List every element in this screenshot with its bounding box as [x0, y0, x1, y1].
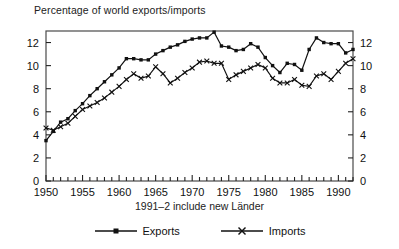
legend-item-exports: Exports [94, 225, 180, 237]
data-point-marker [161, 49, 164, 52]
data-point-marker [256, 45, 259, 48]
data-point-marker [278, 71, 281, 74]
data-point-marker [81, 102, 84, 105]
data-point-marker [212, 30, 215, 33]
data-point-marker [344, 51, 347, 54]
y-axis-label-right: 12 [360, 37, 372, 49]
data-point-marker [169, 45, 172, 48]
x-axis-label: 1985 [290, 186, 314, 198]
legend-item-imports: Imports [220, 225, 306, 237]
data-point-marker [103, 80, 106, 83]
data-point-marker [351, 48, 354, 51]
data-point-marker [242, 48, 245, 51]
x-axis-label: 1975 [216, 186, 240, 198]
y-axis-label-right: 2 [360, 152, 366, 164]
x-axis-label: 1965 [143, 186, 167, 198]
plot-frame [46, 31, 353, 181]
x-axis-label: 1970 [180, 186, 204, 198]
data-point-marker [271, 64, 274, 67]
data-point-marker [154, 52, 157, 55]
x-axis-label: 1990 [326, 186, 350, 198]
data-point-marker [132, 57, 135, 60]
data-point-marker [88, 94, 91, 97]
data-point-marker [234, 49, 237, 52]
data-point-marker [322, 41, 325, 44]
chart-legend: Exports Imports [0, 225, 399, 237]
legend-marker-cross-icon [220, 225, 264, 237]
x-axis-label: 1980 [253, 186, 277, 198]
data-point-marker [227, 45, 230, 48]
x-axis-label: 1960 [107, 186, 131, 198]
data-point-marker [95, 87, 98, 90]
data-point-marker [315, 36, 318, 39]
y-axis-label-left: 6 [33, 106, 39, 118]
y-axis-label-left: 10 [27, 60, 39, 72]
y-axis-label-right: 6 [360, 106, 366, 118]
x-axis-label: 1950 [34, 186, 58, 198]
data-point-marker [176, 43, 179, 46]
data-point-marker [183, 40, 186, 43]
y-axis-label-left: 8 [33, 83, 39, 95]
y-axis-label-left: 12 [27, 37, 39, 49]
data-point-marker [74, 109, 77, 112]
data-point-marker [125, 57, 128, 60]
y-axis-label-left: 2 [33, 152, 39, 164]
data-point-marker [190, 37, 193, 40]
y-axis-label-right: 4 [360, 129, 366, 141]
y-axis-label-right: 10 [360, 60, 372, 72]
y-axis-label-right: 8 [360, 83, 366, 95]
x-axis-label: 1955 [70, 186, 94, 198]
data-point-marker [139, 58, 142, 61]
legend-label-exports: Exports [143, 225, 180, 237]
legend-marker-square-icon [94, 225, 138, 237]
chart-figure: Percentage of world exports/imports 0022… [0, 0, 399, 249]
data-point-marker [307, 48, 310, 51]
data-point-marker [337, 42, 340, 45]
data-point-marker [198, 36, 201, 39]
y-axis-label-right: 0 [360, 175, 366, 187]
data-point-marker [286, 62, 289, 65]
data-point-marker [59, 120, 62, 123]
series-line-imports [46, 59, 353, 131]
data-point-marker [249, 42, 252, 45]
data-point-marker [117, 66, 120, 69]
x-axis-caption: 1991–2 include new Länder [0, 200, 399, 212]
data-point-marker [293, 63, 296, 66]
data-point-marker [110, 73, 113, 76]
data-point-marker [44, 139, 47, 142]
data-point-marker [264, 56, 267, 59]
data-point-marker [205, 36, 208, 39]
data-point-marker [147, 58, 150, 61]
data-point-marker [329, 42, 332, 45]
data-point-marker [220, 44, 223, 47]
legend-label-imports: Imports [269, 225, 306, 237]
y-axis-label-left: 4 [33, 129, 39, 141]
data-point-marker [300, 69, 303, 72]
data-point-marker [66, 117, 69, 120]
